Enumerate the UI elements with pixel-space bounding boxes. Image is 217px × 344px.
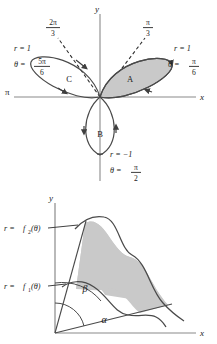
petal-A-label: A: [127, 74, 134, 84]
petal-C-arrow-upper: [76, 60, 86, 68]
outer-curve-label-prefix: r =: [4, 224, 15, 233]
outer-curve-label-fn: f: [23, 224, 27, 233]
region-svg: β α r = f 2 (θ) r = f 1 (θ) y x: [0, 185, 217, 344]
rose-x-axis-label: x: [199, 92, 204, 102]
pi-over-three-numerator: π: [146, 18, 150, 27]
right-annotation-theta-numerator: π: [192, 57, 196, 66]
two-pi-over-three-denominator: 3: [51, 29, 55, 38]
left-annotation-theta-prefix: θ =: [14, 60, 26, 69]
dashed-ray-two-pi-over-three: [58, 38, 100, 97]
right-annotation-r: r = 1: [174, 44, 191, 53]
rose-left-pi-label: π: [5, 87, 10, 97]
pi-over-three-denominator: 3: [146, 29, 150, 38]
petal-C-label: C: [66, 74, 72, 84]
outer-curve-leader-line: [48, 225, 78, 228]
bottom-annotation-theta-numerator: π: [134, 163, 138, 172]
rose-figure-container: A C B y x π 2π 3 π: [0, 0, 217, 185]
figure-page: A C B y x π 2π 3 π: [0, 0, 217, 344]
left-annotation-theta-numerator: 5π: [38, 57, 46, 66]
left-annotation-r: r = 1: [14, 44, 31, 53]
petal-C-arrow-lower: [58, 88, 66, 93]
two-pi-over-three-numerator: 2π: [49, 18, 57, 27]
right-annotation-theta-denominator: 6: [192, 68, 196, 77]
bottom-annotation-theta-prefix: θ =: [110, 166, 122, 175]
region-x-axis-label: x: [199, 328, 204, 338]
label-pi-over-three: π 3: [143, 18, 153, 38]
inner-curve-label-arg: (θ): [31, 282, 41, 291]
alpha-angle-label: α: [101, 314, 107, 325]
label-two-pi-over-three: 2π 3: [46, 18, 60, 38]
bottom-annotation-group: r = −1 θ = π 2: [110, 150, 141, 183]
rose-y-axis-label: y: [94, 4, 99, 14]
right-annotation-group: r = 1 θ = π 6: [168, 44, 199, 77]
region-figure-container: β α r = f 2 (θ) r = f 1 (θ) y x: [0, 185, 217, 344]
outer-curve-label-arg: (θ): [31, 224, 41, 233]
left-annotation-theta-denominator: 6: [40, 68, 44, 77]
region-y-axis-label: y: [48, 193, 53, 203]
inner-curve-label-fn: f: [23, 282, 27, 291]
right-annotation-theta-prefix: θ =: [168, 60, 180, 69]
petal-A-arrow-inbound: [146, 90, 152, 92]
bottom-annotation-theta-denominator: 2: [134, 174, 138, 183]
beta-angle-label: β: [82, 283, 88, 294]
outer-curve-label-group: r = f 2 (θ): [4, 224, 41, 235]
inner-curve-label-prefix: r =: [4, 282, 15, 291]
petal-B-label: B: [97, 129, 103, 139]
inner-curve-label-group: r = f 1 (θ): [4, 282, 41, 293]
bottom-annotation-r: r = −1: [110, 150, 132, 159]
rose-svg: A C B y x π 2π 3 π: [0, 0, 217, 185]
